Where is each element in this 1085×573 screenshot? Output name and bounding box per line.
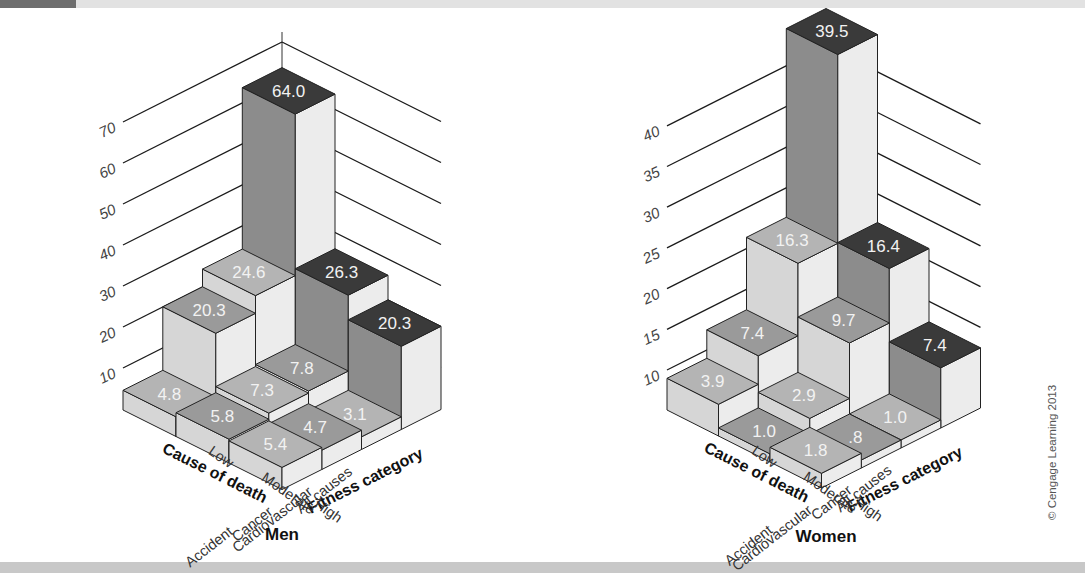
cause-tick-label: Accident — [182, 523, 236, 570]
bar-value-label: 4.8 — [158, 385, 182, 404]
z-tick-label: 60 — [96, 159, 119, 182]
z-tick-label: 30 — [640, 203, 663, 226]
bar-value-label: 16.3 — [776, 231, 809, 250]
chart-women: 1015202530354039.516.316.47.49.77.43.92.… — [639, 9, 980, 573]
z-tick-label: 20 — [95, 323, 119, 346]
z-tick-label: 30 — [96, 282, 119, 305]
z-tick-label: 25 — [639, 244, 663, 267]
bar-value-label: 5.4 — [264, 435, 288, 454]
fitness-mortality-3d-charts: 1020304050607064.024.626.320.37.820.34.8… — [0, 0, 1085, 573]
bar-value-label: 7.4 — [741, 324, 765, 343]
bar-value-label: 39.5 — [815, 22, 848, 41]
bar-value-label: 5.8 — [211, 407, 235, 426]
bar-value-label: 1.8 — [804, 441, 828, 460]
bar-value-label: 1.0 — [883, 408, 907, 427]
bar-value-label: 24.6 — [232, 263, 265, 282]
bar-value-label: 2.9 — [792, 386, 816, 405]
chart-men: 1020304050607064.024.626.320.37.820.34.8… — [95, 32, 441, 570]
bar-value-label: 3.9 — [701, 372, 725, 391]
chart-title: Women — [795, 527, 856, 546]
z-tick-label: 35 — [640, 163, 663, 186]
bar-value-label: 7.4 — [923, 336, 947, 355]
bar-value-label: 26.3 — [325, 263, 358, 282]
bar-value-label: 3.1 — [343, 405, 367, 424]
chart-title: Men — [265, 525, 299, 544]
bar-value-label: 7.8 — [290, 359, 314, 378]
bar-value-label: 9.7 — [832, 311, 856, 330]
bar-value-label: .8 — [848, 428, 862, 447]
bar-value-label: 20.3 — [193, 301, 226, 320]
z-tick-label: 10 — [96, 364, 119, 387]
z-tick-label: 40 — [96, 241, 119, 264]
z-tick-label: 70 — [96, 118, 119, 141]
z-tick-label: 15 — [640, 325, 663, 348]
bar-value-label: 20.3 — [378, 314, 411, 333]
z-tick-label: 40 — [640, 122, 663, 145]
bar-value-label: 16.4 — [867, 237, 900, 256]
bar-value-label: 4.7 — [303, 418, 327, 437]
z-tick-label: 50 — [96, 200, 119, 223]
copyright-notice: © Cengage Learning 2013 — [1046, 385, 1058, 520]
bar-value-label: 64.0 — [272, 82, 305, 101]
bar-value-label: 1.0 — [752, 422, 776, 441]
bar-value-label: 7.3 — [250, 381, 274, 400]
z-tick-label: 10 — [640, 366, 663, 389]
z-tick-label: 20 — [639, 285, 663, 308]
